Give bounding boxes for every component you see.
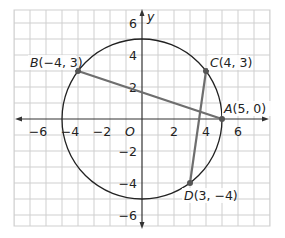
origin-label: O bbox=[125, 124, 135, 139]
point-c-name: C bbox=[210, 55, 219, 70]
y-tick-label: 4 bbox=[129, 48, 137, 63]
x-tick-label: −6 bbox=[29, 124, 47, 139]
point-d bbox=[187, 180, 193, 186]
point-d-name: D bbox=[184, 188, 194, 203]
y-tick-label: −2 bbox=[119, 144, 137, 159]
x-tick-label: 4 bbox=[202, 124, 210, 139]
point-b-coords: (−4, 3) bbox=[39, 55, 83, 70]
y-tick-label: −6 bbox=[119, 208, 137, 223]
x-tick-label: 6 bbox=[234, 124, 242, 139]
y-tick-label: −4 bbox=[119, 176, 137, 191]
point-c-coords: (4, 3) bbox=[219, 55, 253, 70]
x-axis-left-arrow-icon bbox=[15, 117, 22, 122]
point-a-label: A(5, 0) bbox=[223, 101, 266, 116]
point-a bbox=[219, 116, 225, 122]
y-axis-label: y bbox=[146, 9, 155, 24]
point-a-name: A bbox=[223, 101, 233, 116]
x-axis-right-arrow-icon bbox=[262, 117, 269, 122]
x-tick-label: 2 bbox=[170, 124, 178, 139]
y-tick-label: 6 bbox=[129, 16, 137, 31]
coordinate-plane: y O −6 −4 −2 2 4 6 6 4 2 −2 −4 −6 A(5, 0… bbox=[0, 0, 285, 238]
point-c-label: C(4, 3) bbox=[210, 55, 252, 70]
point-a-coords: (5, 0) bbox=[233, 101, 267, 116]
point-d-label: D(3, −4) bbox=[184, 188, 238, 203]
x-tick-label: −2 bbox=[93, 124, 111, 139]
point-b-name: B bbox=[30, 55, 39, 70]
point-b-label: B(−4, 3) bbox=[30, 55, 83, 70]
point-d-coords: (3, −4) bbox=[194, 188, 238, 203]
